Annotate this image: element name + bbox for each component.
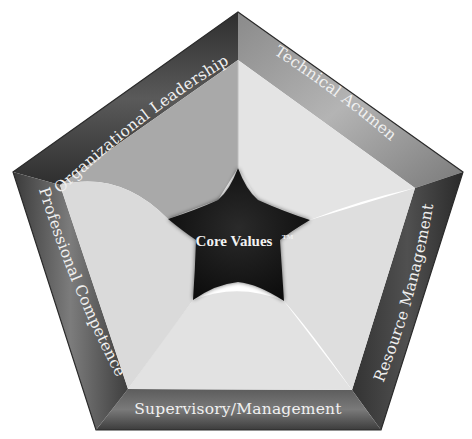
trademark-symbol: TM xyxy=(282,233,294,241)
core-values-label: Core Values xyxy=(196,233,273,249)
core-values-pentagon-diagram: Core Values TM Organizational Leadership… xyxy=(0,0,472,439)
label-supervisory-management: Supervisory/Management xyxy=(134,400,342,418)
